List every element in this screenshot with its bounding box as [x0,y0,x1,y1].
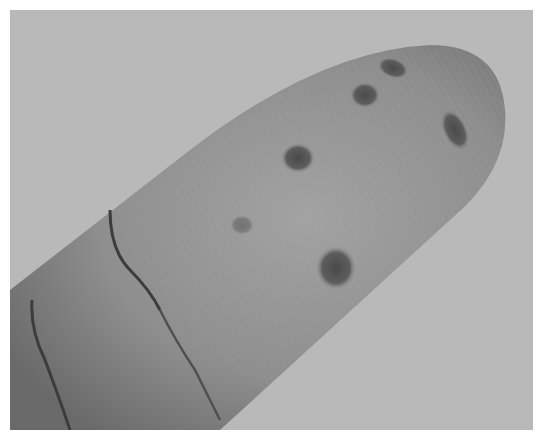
spot-5 [316,246,356,290]
spot-2 [350,82,380,108]
fingertip-illustration [10,10,533,430]
spot-4 [281,143,315,173]
spot-6 [230,215,254,235]
fingertip-photo [10,10,533,430]
